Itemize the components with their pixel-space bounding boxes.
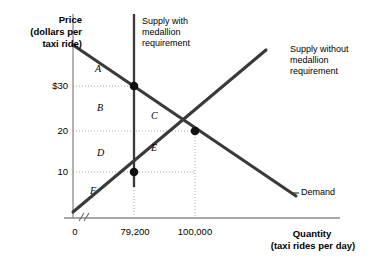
- demand-label: Demand: [301, 187, 335, 198]
- supply-with-medallion-label-line1: Supply with: [142, 16, 188, 27]
- supply-without-medallion-label-line1: Supply without: [290, 44, 349, 55]
- region-label-b: B: [97, 102, 103, 114]
- region-label-c: C: [151, 110, 158, 122]
- axis-break-marks: [79, 213, 89, 221]
- region-label-d: D: [97, 147, 104, 159]
- y-tick-label-30: $30: [26, 80, 68, 91]
- supply-demand-chart: Price (dollars per taxi ride) $30 20 10 …: [0, 0, 377, 262]
- x-axis-title-line2: (taxi rides per day): [252, 240, 374, 251]
- x-axis-title: Quantity: [252, 228, 372, 239]
- supply-with-medallion-label-line2: medallion: [142, 27, 181, 38]
- y-axis-title: Price: [8, 14, 82, 25]
- x-tick-label-100000: 100,000: [166, 226, 224, 237]
- x-tick-label-79200: 79,200: [107, 226, 163, 237]
- supply-without-medallion-curve: [73, 50, 266, 212]
- point-supply-cost-restricted: [130, 168, 139, 177]
- y-tick-label-10: 10: [26, 166, 68, 177]
- point-free-market-equilibrium: [191, 127, 200, 136]
- demand-curve: [73, 45, 296, 196]
- region-label-a: A: [95, 63, 101, 75]
- supply-without-medallion-label-line3: requirement: [290, 66, 338, 77]
- x-origin-label: 0: [64, 226, 86, 237]
- y-axis-title-line3: taxi ride): [4, 38, 82, 49]
- region-label-e: E: [151, 142, 157, 154]
- y-axis-title-line2: (dollars per: [4, 26, 82, 37]
- point-medallion-equilibrium: [130, 82, 139, 91]
- region-label-f: F: [90, 185, 96, 197]
- supply-with-medallion-label-line3: requirement: [142, 38, 190, 49]
- supply-without-medallion-label-line2: medallion: [290, 55, 329, 66]
- y-tick-label-20: 20: [26, 125, 68, 136]
